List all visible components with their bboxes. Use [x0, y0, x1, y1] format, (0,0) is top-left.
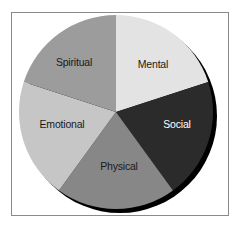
slice-label-social: Social [163, 118, 190, 130]
pie-chart: Mental Social Physical Emotional Spiritu… [0, 0, 236, 227]
slice-label-emotional: Emotional [40, 118, 85, 130]
slice-label-mental: Mental [138, 58, 168, 70]
slice-label-spiritual: Spiritual [56, 56, 92, 68]
pie-slices [19, 15, 213, 209]
slice-label-physical: Physical [100, 160, 138, 172]
